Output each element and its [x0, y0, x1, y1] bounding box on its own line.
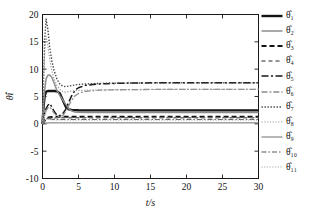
axis-tick-labels: 051015202530-10-505101520	[26, 10, 264, 192]
legend-label: θ̂₁₀	[286, 148, 297, 158]
curve-theta-9	[43, 123, 259, 124]
legend-line-swatch	[261, 160, 283, 174]
legend-item-theta-1[interactable]: θ̂₁	[261, 8, 309, 23]
x-tick-label: 20	[182, 182, 192, 192]
legend-item-theta-2[interactable]: θ̂₂	[261, 23, 309, 38]
curve-theta-6	[43, 89, 259, 123]
legend-item-theta-4[interactable]: θ̂₄	[261, 54, 309, 69]
legend-line-swatch	[261, 115, 283, 129]
legend-item-theta-8[interactable]: θ̂₈	[261, 114, 309, 129]
legend-item-theta-6[interactable]: θ̂₆	[261, 84, 309, 99]
legend-item-theta-10[interactable]: θ̂₁₀	[261, 145, 309, 160]
curve-theta-7	[43, 19, 259, 124]
x-tick-label: 15	[146, 182, 156, 192]
data-curves	[43, 19, 259, 124]
legend-label: θ̂₁	[286, 11, 294, 21]
legend-item-theta-9[interactable]: θ̂₉	[261, 130, 309, 145]
legend-line-swatch	[261, 130, 283, 144]
y-tick-label: 5	[34, 92, 39, 102]
x-tick-label: 10	[110, 182, 120, 192]
legend-item-theta-11[interactable]: θ̂₁₁	[261, 160, 309, 175]
y-tick-label: -10	[26, 174, 39, 184]
legend-line-swatch	[261, 24, 283, 38]
legend-line-swatch	[261, 39, 283, 53]
y-tick-label: 10	[29, 65, 39, 75]
legend-item-theta-5[interactable]: θ̂₅	[261, 69, 309, 84]
x-tick-label: 25	[218, 182, 228, 192]
legend-line-swatch	[261, 85, 283, 99]
legend-line-swatch	[261, 145, 283, 159]
y-tick-label: 15	[29, 37, 39, 47]
y-tick-label: 20	[29, 10, 39, 20]
legend-label: θ̂₆	[286, 87, 294, 97]
y-tick-label: -5	[31, 147, 39, 157]
legend-line-swatch	[261, 100, 283, 114]
legend-label: θ̂₄	[286, 56, 294, 66]
legend-label: θ̂₈	[286, 117, 294, 127]
y-tick-label: 0	[34, 119, 39, 129]
x-axis-label: t/s	[146, 197, 156, 208]
legend-item-theta-3[interactable]: θ̂₃	[261, 38, 309, 53]
legend-line-swatch	[261, 54, 283, 68]
x-tick-label: 5	[76, 182, 81, 192]
legend-label: θ̂₅	[286, 72, 294, 82]
legend-item-theta-7[interactable]: θ̂₇	[261, 99, 309, 114]
figure: 051015202530-10-505101520 t/sθ̂i θ̂₁θ̂₂θ…	[0, 0, 309, 221]
y-axis-label: θ̂i	[4, 91, 15, 100]
legend-line-swatch	[261, 69, 283, 83]
legend-label: θ̂₃	[286, 41, 294, 51]
legend-line-swatch	[261, 9, 283, 23]
x-tick-label: 0	[40, 182, 45, 192]
legend-label: θ̂₇	[286, 102, 294, 112]
chart-legend: θ̂₁θ̂₂θ̂₃θ̂₄θ̂₅θ̂₆θ̂₇θ̂₈θ̂₉θ̂₁₀θ̂₁₁	[261, 8, 309, 188]
legend-label: θ̂₁₁	[286, 163, 297, 173]
legend-label: θ̂₂	[286, 26, 294, 36]
legend-label: θ̂₉	[286, 132, 294, 142]
